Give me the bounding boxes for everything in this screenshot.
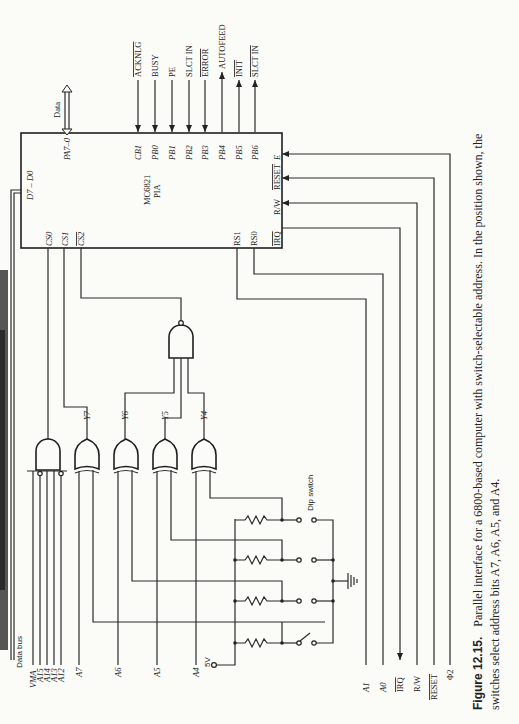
pia-name: MC6821 (142, 175, 152, 205)
xor-gate-a7 (75, 439, 325, 665)
label-a5: A5 (152, 668, 162, 678)
dip-switch[interactable] (280, 518, 335, 645)
label-y7: Y7 (82, 410, 92, 420)
switch-4-terminal-b[interactable] (312, 641, 316, 645)
pin-reset: RESET (272, 163, 282, 190)
pin-pb6: PB6 (250, 145, 260, 161)
switch-4-lever[interactable] (300, 633, 310, 641)
label-irq: IRQ (395, 677, 405, 692)
pin-cb1: CB1 (133, 145, 143, 160)
pin-e: E (272, 154, 282, 161)
label-phi2: Φ2 (445, 670, 455, 680)
xor-gate-a5 (153, 439, 282, 665)
pin-cs0: CS0 (44, 231, 54, 246)
pin-pb5: PB5 (234, 145, 244, 161)
switch-2-terminal-b[interactable] (312, 558, 316, 562)
svg-text:Figure 12.15. Parallel i: Figure 12.15. Parallel interface for a 6… (468, 134, 485, 710)
and-gate-vma (27, 439, 67, 665)
signal-slct-in-out: SLCT IN (250, 45, 260, 77)
dip-switch-label: Dip switch (306, 475, 315, 511)
label-a12: A12 (56, 668, 66, 683)
caption-line-2: switches select address bits A7, A6, A5,… (488, 479, 502, 710)
switch-3-terminal-b[interactable] (312, 599, 316, 603)
port-a-data-label: Data (52, 102, 62, 118)
pin-rs0: RS0 (249, 231, 259, 246)
switch-1-terminal-b[interactable] (312, 518, 316, 522)
signal-error: ERROR (200, 48, 210, 77)
signal-slct-in: SLCT IN (184, 45, 194, 77)
label-y5: Y5 (160, 411, 170, 420)
label-a0: A0 (378, 682, 388, 693)
data-bus-label: Data bus (15, 636, 24, 668)
label-a4: A4 (191, 667, 201, 678)
pin-d7-d0: D7 – D0 (25, 170, 35, 201)
label-y4: Y4 (199, 410, 209, 420)
resistor-row-2 (235, 556, 282, 564)
label-a1: A1 (361, 683, 371, 693)
pin-irq: IRQ (272, 231, 282, 246)
pin-cs1: CS1 (60, 232, 70, 246)
switch-1-terminal-a[interactable] (297, 518, 301, 522)
xor-gate-a4 (192, 439, 282, 665)
switch-3-terminal-a[interactable] (297, 599, 301, 603)
control-wires (237, 151, 450, 665)
pin-rw: R/W (272, 199, 282, 215)
port-a-data-arrow (62, 85, 72, 135)
pin-pb0: PB0 (150, 145, 160, 161)
switch-2-terminal-a[interactable] (297, 558, 301, 562)
signal-init: INIT (234, 59, 244, 77)
resistor-row-1 (235, 516, 282, 524)
signal-autofeed: AUTOFEED (217, 24, 227, 69)
page-edge-dark (0, 330, 5, 590)
switch-4-terminal-a[interactable] (297, 641, 301, 645)
resistor-row-4 (235, 639, 282, 647)
caption-label: Figure 12.15. (471, 637, 485, 710)
figure-caption: Figure 12.15. Parallel interface for a 6… (468, 134, 502, 710)
resistor-row-3 (235, 597, 282, 605)
signal-busy: BUSY (150, 54, 160, 77)
pullup-network (212, 519, 237, 667)
label-5v: 5V (203, 657, 212, 667)
signal-acknlg: ACKNLG (133, 42, 143, 77)
label-reset: RESET (429, 673, 439, 700)
pin-pa7-0: PA7–0 (62, 137, 72, 161)
circuit-diagram: Data bus MC6821 PIA D7 – D0 PA7–0 Data C… (0, 0, 519, 724)
ground-icon (333, 573, 357, 589)
pia-type: PIA (152, 183, 162, 198)
label-y6: Y6 (120, 410, 130, 420)
pin-cs2: CS2 (76, 231, 86, 246)
xor-gate-a6 (114, 439, 282, 665)
pin-pb4: PB4 (217, 145, 227, 161)
caption-line-1: Parallel interface for a 6800-based comp… (471, 134, 485, 627)
pin-pb2: PB2 (184, 145, 194, 161)
pin-rs1: RS1 (232, 231, 242, 246)
nand-gate (125, 321, 204, 440)
label-rw: R/W (412, 676, 422, 692)
label-a7: A7 (74, 667, 84, 678)
signal-pe: PE (167, 67, 177, 77)
pin-pb1: PB1 (167, 145, 177, 161)
port-b-lines (135, 72, 258, 132)
label-a6: A6 (113, 667, 123, 678)
data-bus (11, 190, 21, 660)
pin-pb3: PB3 (200, 145, 210, 161)
